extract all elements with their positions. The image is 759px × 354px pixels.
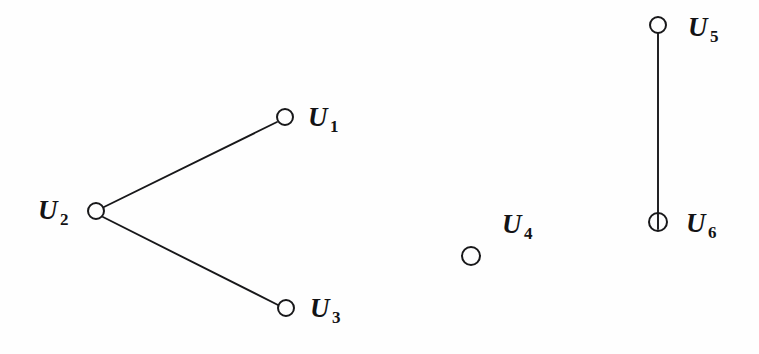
vertex-label-subscript: 1 [330, 117, 339, 136]
vertex-label-subscript: 5 [710, 27, 719, 46]
vertex-label-subscript: 4 [524, 224, 533, 243]
vertex-label-u6: U6 [686, 210, 715, 237]
vertex-label-u4: U4 [502, 211, 531, 238]
vertex-label-u2: U2 [38, 197, 67, 224]
vertex-label-base: U [310, 293, 330, 323]
vertex-label-u1: U1 [308, 104, 337, 131]
graph-vertex-u4 [461, 246, 481, 266]
graph-vertex-u6 [648, 212, 668, 232]
vertex-label-base: U [502, 209, 522, 239]
vertex-label-subscript: 6 [708, 223, 717, 242]
edge-layer [0, 0, 759, 354]
graph-figure: U1U2U3U4U5U6 [0, 0, 759, 354]
vertex-label-subscript: 2 [60, 210, 69, 229]
graph-vertex-u5 [649, 16, 667, 34]
graph-vertex-u1 [276, 108, 294, 126]
graph-edge-u2-u1 [104, 122, 277, 207]
vertex-label-subscript: 3 [332, 308, 341, 327]
graph-vertex-u3 [277, 299, 295, 317]
graph-vertex-u2 [87, 202, 105, 220]
graph-edge-u2-u3 [103, 217, 278, 305]
vertex-label-u3: U3 [310, 295, 339, 322]
vertex-label-u5: U5 [688, 14, 717, 41]
vertex-label-base: U [688, 12, 708, 42]
vertex-label-base: U [686, 208, 706, 238]
vertex-label-base: U [38, 195, 58, 225]
vertex-label-base: U [308, 102, 328, 132]
